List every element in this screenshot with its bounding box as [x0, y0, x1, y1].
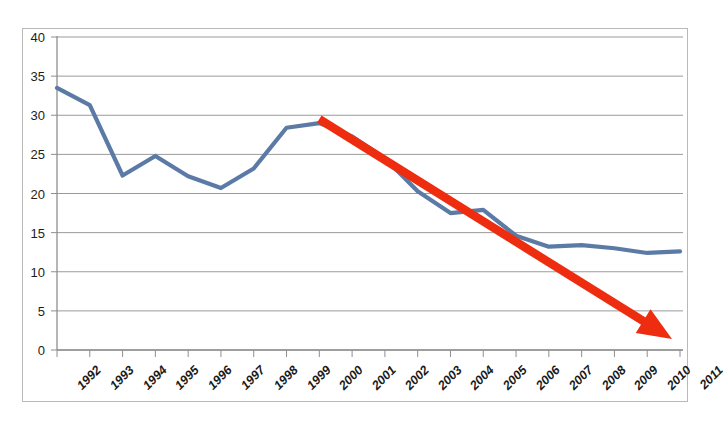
y-axis-tick-label: 0 — [19, 343, 45, 358]
y-axis-tick-label: 30 — [19, 108, 45, 123]
y-axis-tick-label: 35 — [19, 69, 45, 84]
y-axis-tick-label: 15 — [19, 225, 45, 240]
y-axis-tick-label: 25 — [19, 147, 45, 162]
y-axis-tick-label: 5 — [19, 303, 45, 318]
y-axis-tick-label: 10 — [19, 264, 45, 279]
y-axis-tick-label: 20 — [19, 186, 45, 201]
chart-plot-frame — [22, 28, 688, 402]
y-axis-tick-label: 40 — [19, 30, 45, 45]
clipped-caption-above-chart — [24, 0, 684, 5]
x-axis-tick-label: 2011 — [697, 363, 726, 392]
